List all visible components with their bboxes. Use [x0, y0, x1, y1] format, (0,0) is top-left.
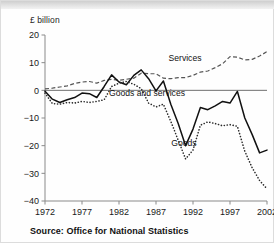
x-tick-label: 2002 — [257, 207, 274, 217]
y-tick-label: 10 — [29, 58, 39, 68]
x-tick-label: 1992 — [183, 207, 203, 217]
series-label-goods-and-services: Goods and services — [109, 88, 185, 98]
y-tick-label: 0 — [34, 86, 39, 96]
plot-area: 20100−10−20−30−4019721977198219871992199… — [1, 1, 274, 243]
series-label-goods: Goods — [171, 138, 196, 148]
series-line-services — [45, 52, 267, 89]
x-tick-label: 1977 — [72, 207, 92, 217]
y-tick-label: −40 — [24, 196, 39, 206]
chart-tick-labels: 20100−10−20−30−4019721977198219871992199… — [24, 30, 274, 217]
x-tick-label: 1987 — [146, 207, 166, 217]
figure-container: £ billion 20100−10−20−30−401972197719821… — [0, 0, 274, 243]
y-tick-label: −20 — [24, 141, 39, 151]
x-tick-label: 1997 — [220, 207, 240, 217]
y-tick-label: −10 — [24, 113, 39, 123]
line-chart-svg: 20100−10−20−30−4019721977198219871992199… — [1, 1, 274, 243]
chart-series — [45, 52, 267, 189]
source-note: Source: Office for National Statistics — [30, 226, 188, 236]
y-tick-label: 20 — [29, 30, 39, 40]
y-tick-label: −30 — [24, 169, 39, 179]
chart-annotations: ServicesGoods and servicesGoods — [109, 53, 201, 148]
series-label-services: Services — [169, 53, 202, 63]
chart-axes — [42, 35, 268, 205]
x-tick-label: 1972 — [35, 207, 55, 217]
x-tick-label: 1982 — [109, 207, 129, 217]
